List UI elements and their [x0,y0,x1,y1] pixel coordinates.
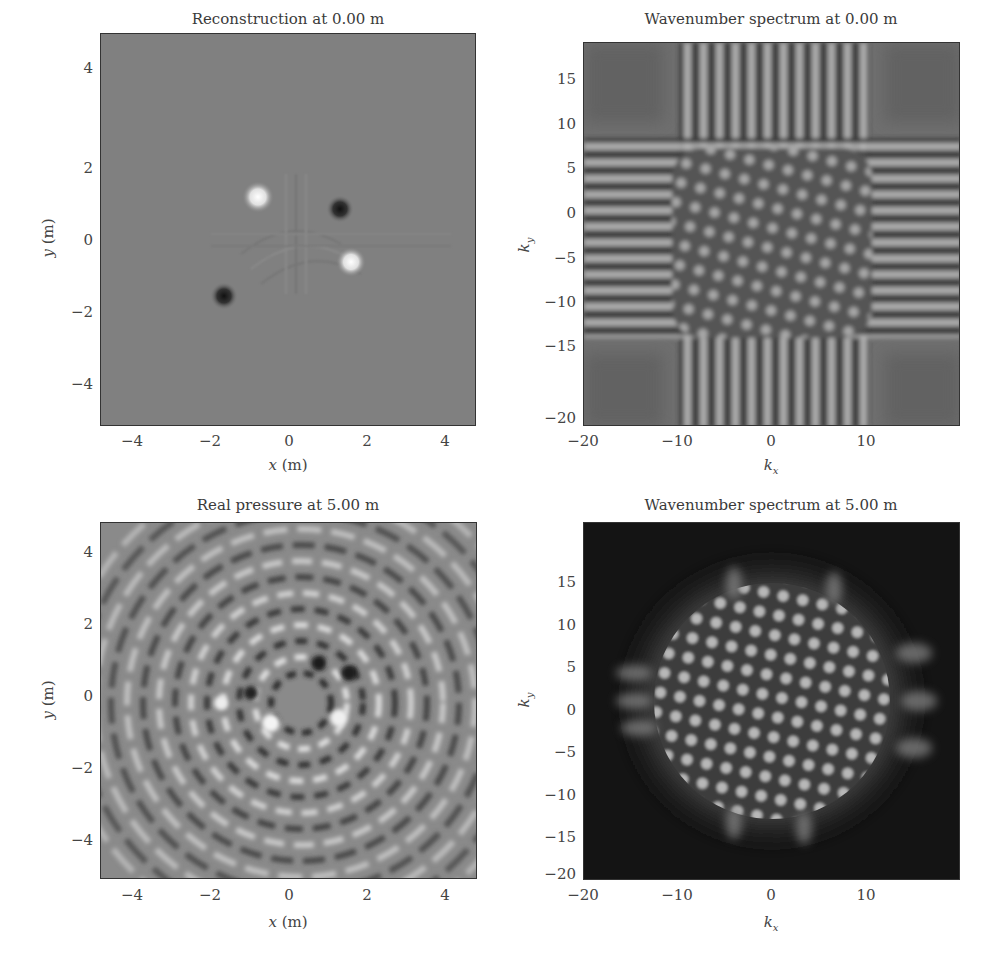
x-tick: −4 [121,432,143,450]
y-tick: −5 [554,249,576,267]
y-tick: −20 [544,865,576,883]
y-tick: 0 [566,701,576,719]
chart-title: Real pressure at 5.00 m [197,496,379,514]
y-axis-label: ky [515,693,535,708]
chart-title: Reconstruction at 0.00 m [192,10,385,28]
y-tick: 15 [557,70,576,88]
x-tick: 4 [440,886,450,904]
y-tick: −20 [544,409,576,427]
x-tick: 0 [284,432,294,450]
x-tick: −2 [199,886,221,904]
x-tick: 4 [440,432,450,450]
x-tick: −2 [199,432,221,450]
y-tick: −2 [71,759,93,777]
y-tick: −10 [544,786,576,804]
heatmap-reconstruction [100,33,476,426]
y-tick: −5 [554,743,576,761]
y-tick: −10 [544,293,576,311]
y-tick: 0 [566,204,576,222]
x-tick: 0 [766,432,776,450]
y-tick: 4 [83,59,93,77]
y-tick: −15 [544,337,576,355]
x-tick: −10 [661,886,693,904]
heatmap-real-pressure [100,522,477,879]
y-tick: 10 [557,616,576,634]
y-tick: 0 [83,687,93,705]
y-tick: −15 [544,828,576,846]
y-tick: −4 [71,831,93,849]
y-tick: 2 [83,615,93,633]
heatmap-spectrum-5m [583,522,960,880]
x-tick: 2 [362,886,372,904]
y-tick: 2 [83,159,93,177]
x-tick: 10 [856,886,875,904]
y-tick: 5 [566,658,576,676]
y-axis-label: y (m) [39,218,57,257]
x-tick: −10 [661,432,693,450]
y-tick: 5 [566,159,576,177]
y-axis-label: y (m) [39,680,57,719]
x-tick: −20 [567,886,599,904]
x-axis-label: kx [764,913,779,933]
x-tick: 0 [766,886,776,904]
x-tick: 10 [856,432,875,450]
heatmap-spectrum-0m [583,42,960,426]
y-tick: −2 [71,303,93,321]
y-axis-label: ky [515,238,535,253]
x-tick: −4 [121,886,143,904]
x-axis-label: x (m) [268,913,307,931]
y-tick: 0 [83,231,93,249]
x-axis-label: x (m) [268,456,307,474]
x-tick: 0 [284,886,294,904]
x-tick: 2 [362,432,372,450]
x-tick: −20 [567,432,599,450]
chart-title: Wavenumber spectrum at 0.00 m [645,10,898,28]
chart-title: Wavenumber spectrum at 5.00 m [645,496,898,514]
y-tick: 15 [557,573,576,591]
y-tick: 4 [83,543,93,561]
x-axis-label: kx [764,456,779,476]
y-tick: 10 [557,115,576,133]
y-tick: −4 [71,375,93,393]
